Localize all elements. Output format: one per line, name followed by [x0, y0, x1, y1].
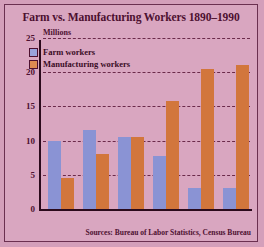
y-axis-tick-label: 10 — [26, 136, 35, 146]
gridline — [43, 141, 250, 142]
bar-manufacturing-1910 — [96, 154, 109, 209]
bar-manufacturing-1970 — [201, 69, 214, 209]
gridline — [43, 175, 250, 176]
gridline — [43, 72, 250, 73]
y-axis-tick-label: 15 — [26, 101, 35, 111]
legend-swatch-manufacturing-icon — [29, 60, 38, 69]
source-note: Sources: Bureau of Labor Statistics, Cen… — [85, 228, 251, 237]
bar-farm-1970 — [188, 188, 201, 209]
legend-item-manufacturing: Manufacturing workers — [29, 59, 130, 69]
chart-legend: Farm workers Manufacturing workers — [29, 47, 130, 71]
y-axis-tick-label: 25 — [26, 33, 35, 43]
chart-title: Farm vs. Manufacturing Workers 1890–1990 — [5, 11, 257, 23]
bar-farm-1930 — [118, 137, 131, 209]
gridline — [43, 106, 250, 107]
y-axis-tick-label: 5 — [31, 170, 36, 180]
legend-swatch-farm-icon — [29, 48, 38, 57]
legend-label-manufacturing: Manufacturing workers — [43, 59, 130, 69]
legend-label-farm: Farm workers — [43, 47, 95, 57]
legend-item-farm: Farm workers — [29, 47, 130, 57]
x-axis-line — [39, 209, 252, 211]
bar-manufacturing-1930 — [131, 137, 144, 209]
bar-farm-1950 — [153, 156, 166, 209]
bar-manufacturing-1890 — [61, 178, 74, 209]
bar-farm-1990 — [223, 188, 236, 209]
bar-manufacturing-1950 — [166, 101, 179, 209]
gridline — [43, 38, 250, 39]
bar-farm-1890 — [48, 141, 61, 209]
y-axis-units-label: Millions — [43, 28, 71, 37]
bar-farm-1910 — [83, 130, 96, 209]
bar-manufacturing-1990 — [236, 65, 249, 209]
chart-frame: Farm vs. Manufacturing Workers 1890–1990… — [4, 4, 258, 242]
y-axis-tick-label: 0 — [31, 204, 36, 214]
